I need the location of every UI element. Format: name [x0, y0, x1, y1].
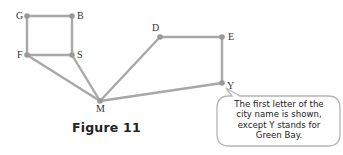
graph-nodes [24, 13, 225, 104]
node-y [219, 80, 225, 86]
node-s [69, 52, 75, 58]
node-label-g: G [16, 11, 23, 21]
callout-line: except Y stands for [222, 120, 336, 130]
node-d [157, 34, 163, 40]
node-label-e: E [228, 32, 234, 42]
node-label-m: M [96, 104, 105, 114]
figure-11: GBFSMDEY The first letter of the city na… [0, 0, 343, 155]
graph-edges [27, 16, 222, 101]
node-f [24, 52, 30, 58]
callout-line: The first letter of the [222, 99, 336, 109]
node-label-f: F [17, 50, 23, 60]
callout-text: The first letter of the city name is sho… [222, 99, 336, 141]
node-label-y: Y [227, 81, 234, 91]
edge-s-m [72, 55, 100, 101]
node-label-d: D [152, 23, 159, 33]
callout-line: city name is shown, [222, 109, 336, 119]
node-e [219, 34, 225, 40]
callout-line: Green Bay. [222, 130, 336, 140]
figure-caption: Figure 11 [72, 120, 141, 135]
edge-f-m [27, 55, 100, 101]
node-label-s: S [77, 50, 83, 60]
node-label-b: B [77, 11, 84, 21]
node-g [24, 13, 30, 19]
edge-m-y [100, 83, 222, 101]
node-b [69, 13, 75, 19]
edge-m-d [100, 37, 160, 101]
